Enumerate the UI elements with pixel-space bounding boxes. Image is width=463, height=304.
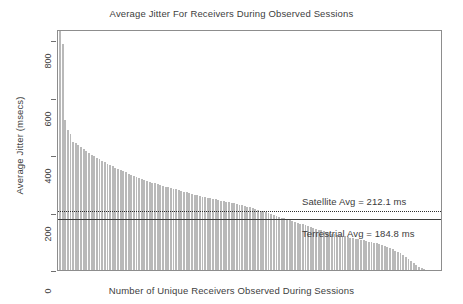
bar: [173, 189, 175, 270]
bar: [365, 241, 367, 270]
bar: [59, 31, 61, 270]
bar: [215, 199, 217, 270]
bar: [381, 245, 383, 270]
bar: [188, 193, 190, 270]
bar: [378, 244, 380, 270]
bar: [72, 142, 74, 270]
bar: [373, 243, 375, 270]
bar: [389, 248, 391, 270]
terrestrial-average-annotation: Terrestrial Avg = 184.8 ms: [302, 228, 415, 239]
bar: [423, 269, 425, 270]
bar: [165, 187, 167, 270]
bar: [122, 171, 124, 270]
bar: [410, 261, 412, 270]
bar: [191, 194, 193, 270]
bar: [99, 159, 101, 270]
bar: [83, 149, 85, 270]
bar: [91, 155, 93, 270]
satellite-average-line: [58, 211, 441, 212]
bar: [199, 196, 201, 270]
bar: [120, 170, 122, 270]
bar: [202, 197, 204, 270]
bar: [62, 44, 64, 270]
bar: [101, 161, 103, 270]
bar: [352, 238, 354, 270]
bar: [262, 211, 264, 270]
bar: [204, 197, 206, 270]
bar: [178, 190, 180, 270]
bar: [186, 192, 188, 270]
bar: [104, 162, 106, 270]
bar: [170, 188, 172, 270]
bar: [299, 224, 301, 270]
bar: [344, 236, 346, 270]
bar: [418, 267, 420, 270]
bar: [376, 243, 378, 270]
bar: [347, 237, 349, 270]
bar: [196, 195, 198, 270]
bar: [360, 240, 362, 270]
bar: [392, 249, 394, 270]
bar: [228, 202, 230, 270]
bar: [421, 268, 423, 270]
bar: [212, 199, 214, 270]
bar: [109, 165, 111, 270]
bar: [355, 239, 357, 270]
bar: [281, 218, 283, 271]
bar: [371, 242, 373, 270]
bar: [133, 176, 135, 270]
bar: [397, 252, 399, 270]
bar: [167, 187, 169, 270]
bar: [70, 134, 72, 270]
bar: [400, 253, 402, 270]
bar: [175, 189, 177, 270]
bar: [368, 242, 370, 270]
bar: [241, 205, 243, 270]
bar: [93, 156, 95, 270]
bar: [125, 172, 127, 270]
y-axis-tick-label-wrap: 800: [8, 36, 48, 46]
bar: [239, 205, 241, 270]
bar: [149, 182, 151, 270]
bar: [143, 180, 145, 270]
bar: [75, 143, 77, 270]
bar: [297, 223, 299, 270]
bar: [157, 184, 159, 270]
bar: [180, 191, 182, 270]
y-axis-tick-label-wrap: 600: [8, 94, 48, 104]
bar: [289, 220, 291, 270]
bar: [415, 265, 417, 270]
y-axis-label: Average Jitter (msecs): [14, 66, 25, 226]
bar: [349, 238, 351, 270]
bar: [136, 177, 138, 270]
bar: [141, 179, 143, 270]
bar: [107, 164, 109, 270]
bar: [331, 234, 333, 270]
y-axis-tick-label-wrap: 200: [8, 209, 48, 219]
bar: [236, 204, 238, 270]
bar: [334, 234, 336, 270]
x-axis-label: Number of Unique Receivers Observed Duri…: [0, 285, 463, 296]
bar: [194, 195, 196, 270]
bar: [159, 185, 161, 270]
bar: [265, 212, 267, 270]
bar: [405, 257, 407, 270]
bar: [67, 130, 69, 270]
bar: [233, 203, 235, 270]
bar: [291, 221, 293, 270]
bar: [64, 120, 66, 270]
jitter-bar-chart-figure: Average Jitter For Receivers During Obse…: [0, 0, 463, 304]
bar: [294, 222, 296, 270]
bar: [283, 218, 285, 270]
y-axis-tick-label: 600: [43, 99, 53, 139]
bar: [363, 240, 365, 270]
bar: [270, 214, 272, 270]
bar: [384, 246, 386, 270]
satellite-average-annotation: Satellite Avg = 212.1 ms: [302, 196, 406, 207]
bar: [342, 236, 344, 270]
bar: [80, 147, 82, 270]
y-axis-tick-label-wrap: 400: [8, 151, 48, 161]
chart-title: Average Jitter For Receivers During Obse…: [0, 8, 463, 19]
y-axis-tick-label: 800: [43, 41, 53, 81]
bar: [151, 183, 153, 271]
